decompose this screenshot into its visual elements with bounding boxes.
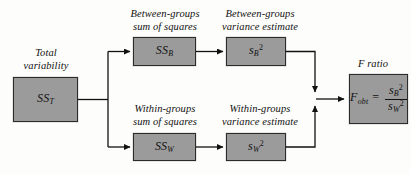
caption-total-variability: Total variability [13,47,79,72]
line-sb2-to-junction [286,52,315,93]
fraction-denominator: sW2 [385,99,407,114]
symbol-s-w-squared: sW2 [248,140,264,154]
caption-f-ratio: F ratio [341,58,405,71]
caption-between-groups-sum-of-squares: Between-groups sum of squares [116,8,214,33]
node-within-groups-variance-estimate: sW2 [226,133,286,161]
node-f-ratio: Fobt = sB2 sW2 [349,74,408,124]
formula-f-obtained: Fobt = sB2 sW2 [350,84,407,113]
caption-within-groups-sum-of-squares: Within-groups sum of squares [116,103,214,128]
node-between-groups-variance-estimate: sB2 [226,37,286,66]
fraction-sb2-over-sw2: sB2 sW2 [385,84,407,113]
symbol-ss-w: SSW [155,140,174,154]
caption-within-groups-variance-estimate: Within-groups variance estimate [207,103,313,128]
symbol-ss-b: SSB [156,44,173,58]
node-between-groups-sum-of-squares: SSB [133,37,196,66]
fraction-numerator: sB2 [386,84,406,98]
anova-flow-diagram: Total variability Between-groups sum of … [0,0,411,175]
symbol-ss-t: SST [37,92,54,106]
node-total-variability: SST [13,77,78,122]
symbol-s-b-squared: sB2 [249,44,263,58]
caption-between-groups-variance-estimate: Between-groups variance estimate [207,8,313,33]
node-within-groups-sum-of-squares: SSW [133,133,196,161]
